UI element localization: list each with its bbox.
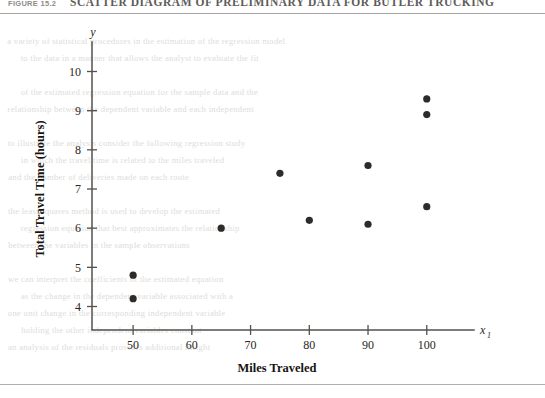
ticks-group: 456789105060708090100 <box>69 65 436 352</box>
header-rule <box>0 13 545 14</box>
y-axis-title: Total Travel Time (hours) <box>33 120 47 257</box>
data-point <box>423 111 430 118</box>
x-axis-variable-subscript: 1 <box>487 331 491 340</box>
y-tick-label: 5 <box>75 261 81 275</box>
x-axis-variable-name: x <box>479 323 486 337</box>
y-tick-label: 4 <box>75 300 81 314</box>
figure-header: FIGURE 15.2 SCATTER DIAGRAM OF PRELIMINA… <box>8 0 537 10</box>
y-tick-label: 9 <box>75 104 81 118</box>
y-tick-label: 6 <box>75 221 81 235</box>
data-points-group <box>130 95 431 302</box>
scatter-plot-svg: 456789105060708090100 yx1Miles TraveledT… <box>0 0 545 398</box>
figure-number: FIGURE 15.2 <box>8 0 56 8</box>
y-tick-label: 8 <box>75 143 81 157</box>
data-point <box>423 95 430 102</box>
y-axis-variable-name: y <box>89 25 96 39</box>
scatter-plot: 456789105060708090100 yx1Miles TraveledT… <box>0 0 545 398</box>
axes-group <box>92 42 474 330</box>
x-tick-label: 90 <box>362 338 374 352</box>
data-point <box>423 203 430 210</box>
x-tick-label: 70 <box>245 338 257 352</box>
y-tick-label: 7 <box>75 182 81 196</box>
data-point <box>306 217 313 224</box>
x-tick-label: 60 <box>186 338 198 352</box>
figure-title: SCATTER DIAGRAM OF PRELIMINARY DATA FOR … <box>70 0 495 8</box>
x-tick-label: 50 <box>127 338 139 352</box>
axis-lines <box>92 42 474 330</box>
data-point <box>130 295 137 302</box>
x-tick-label: 100 <box>418 338 436 352</box>
x-axis-title: Miles Traveled <box>237 361 316 375</box>
x-tick-label: 80 <box>303 338 315 352</box>
axis-labels-group: yx1Miles TraveledTotal Travel Time (hour… <box>33 25 491 375</box>
footer-rule <box>0 384 545 385</box>
data-point <box>276 170 283 177</box>
data-point <box>218 225 225 232</box>
data-point <box>364 221 371 228</box>
y-tick-label: 10 <box>69 65 81 79</box>
data-point <box>130 272 137 279</box>
data-point <box>364 162 371 169</box>
